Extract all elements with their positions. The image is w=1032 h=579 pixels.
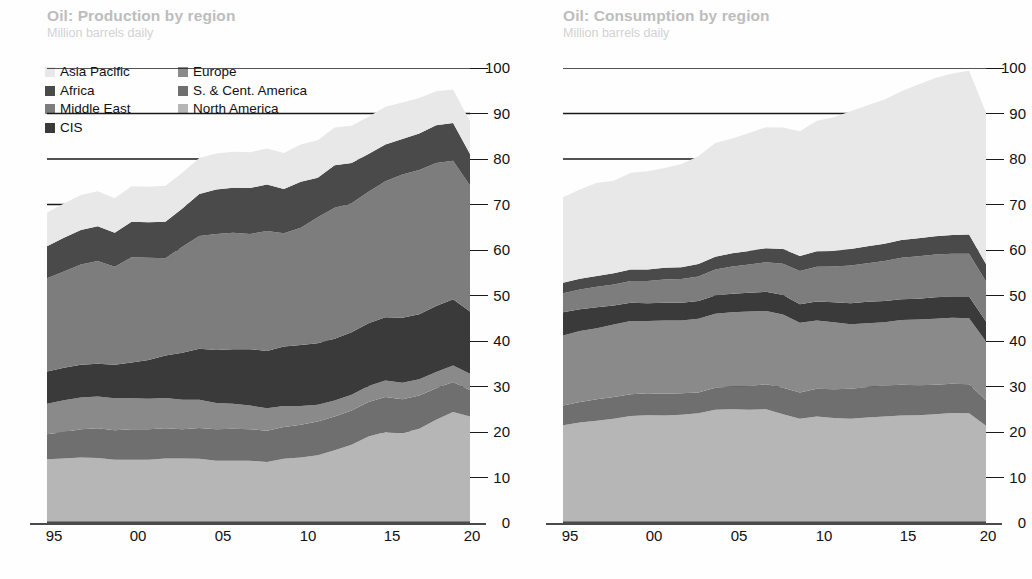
x-tick-00: 00	[118, 527, 158, 544]
panel-consumption: Oil: Consumption by region Million barre…	[516, 0, 1032, 579]
y-tick-0: 0	[470, 514, 510, 531]
y-tick-mark-90	[470, 113, 488, 114]
y-tick-mark-80	[470, 159, 488, 160]
page-title-consumption: Oil: Consumption by region	[563, 7, 770, 25]
x-tick-15: 15	[372, 527, 412, 544]
plot-area-consumption	[563, 68, 986, 523]
y-tick-mark-100	[470, 68, 488, 69]
x-tick-15: 15	[888, 527, 928, 544]
x-tick-95: 95	[550, 527, 590, 544]
y-tick-mark-40	[470, 341, 488, 342]
y-tick-mark-60	[986, 250, 1004, 251]
page-subtitle-consumption: Million barrels daily	[563, 26, 669, 40]
y-tick-mark-70	[470, 204, 488, 205]
x-tick-10: 10	[288, 527, 328, 544]
y-tick-mark-50	[986, 295, 1004, 296]
y-tick-mark-40	[986, 341, 1004, 342]
y-tick-mark-90	[986, 113, 1004, 114]
y-tick-mark-80	[986, 159, 1004, 160]
page-subtitle-production: Million barrels daily	[47, 26, 153, 40]
x-tick-05: 05	[203, 527, 243, 544]
y-tick-mark-50	[470, 295, 488, 296]
y-tick-0: 0	[986, 514, 1026, 531]
y-tick-mark-30	[986, 386, 1004, 387]
x-tick-10: 10	[804, 527, 844, 544]
y-tick-mark-70	[986, 204, 1004, 205]
chart-page: Oil: Production by region Million barrel…	[0, 0, 1032, 579]
area-chart-consumption	[563, 68, 986, 523]
area-chart-production	[47, 68, 470, 523]
x-axis-line-consumption	[546, 523, 1002, 525]
y-tick-mark-100	[986, 68, 1004, 69]
y-tick-mark-20	[470, 432, 488, 433]
y-tick-mark-30	[470, 386, 488, 387]
y-tick-mark-10	[470, 477, 488, 478]
x-tick-00: 00	[634, 527, 674, 544]
x-tick-95: 95	[34, 527, 74, 544]
plot-area-production	[47, 68, 470, 523]
panel-production: Oil: Production by region Million barrel…	[0, 0, 516, 579]
page-title-production: Oil: Production by region	[47, 7, 236, 25]
y-tick-mark-20	[986, 432, 1004, 433]
x-axis-line-production	[30, 523, 486, 525]
y-tick-mark-60	[470, 250, 488, 251]
area-band-north-america	[563, 409, 986, 523]
x-tick-05: 05	[719, 527, 759, 544]
y-tick-mark-10	[986, 477, 1004, 478]
